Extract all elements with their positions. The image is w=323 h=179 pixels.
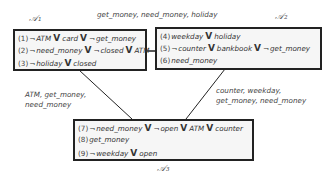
literal-atom: holiday (36, 59, 62, 68)
literal-atom: open (139, 149, 157, 158)
clause-row: (3)¬holidayVclosed (18, 57, 143, 69)
clause-number: (8) (78, 135, 88, 144)
negation-symbol: ¬ (171, 44, 177, 53)
literal-atom: closed (73, 59, 96, 68)
partition-box-a2: (4)weekdayVholiday(5)¬counterVbankbookV¬… (155, 27, 322, 70)
or-operator: V (180, 123, 187, 133)
partition-box-a1: (1)¬ATMVcardV¬get_money(2)¬need_moneyV¬c… (13, 29, 147, 71)
literal-atom: need_money (36, 46, 82, 55)
edge-a1-a3 (79, 70, 132, 119)
negation-symbol: ¬ (29, 59, 35, 68)
literal-atom: counter (178, 44, 206, 53)
negation-symbol: ¬ (89, 34, 95, 43)
literal-atom: ATM (36, 34, 51, 43)
literal-atom: get_money (89, 135, 129, 144)
partition-box-a3: (7)¬need_moneyV¬openVATMVcounter(8)get_m… (73, 119, 254, 161)
clause-row: (5)¬counterVbankbookV¬get_money (160, 42, 318, 54)
literal-atom: need_money (96, 124, 142, 133)
clause-row: (9)¬weekdayVopen (78, 147, 250, 159)
literal-atom: card (62, 34, 78, 43)
or-operator: V (84, 45, 91, 55)
or-operator: V (80, 33, 87, 43)
clause-number: (7) (78, 124, 88, 133)
clause-row: (8)get_money (78, 134, 250, 146)
literal-atom: closed (100, 46, 123, 55)
or-operator: V (64, 58, 71, 68)
literal-atom: ATM (134, 46, 149, 55)
clause-row: (4)weekdayVholiday (160, 30, 318, 42)
clause-number: (5) (160, 44, 170, 53)
negation-symbol: ¬ (89, 124, 95, 133)
partition-name-a3: 𝒜₃ (157, 163, 170, 174)
edge-label-line: get_money, need_money (216, 96, 306, 106)
or-operator: V (130, 148, 137, 158)
or-operator: V (206, 123, 213, 133)
negation-symbol: ¬ (263, 44, 269, 53)
clause-row: (2)¬need_moneyV¬closedVATM (18, 44, 143, 56)
edge-label-line: ATM, get_money, (25, 90, 86, 100)
negation-symbol: ¬ (89, 149, 95, 158)
or-operator: V (144, 123, 151, 133)
negation-symbol: ¬ (29, 46, 35, 55)
clause-number: (6) (160, 56, 170, 65)
clause-number: (2) (18, 46, 28, 55)
or-operator: V (53, 33, 60, 43)
literal-atom: bankbook (217, 44, 252, 53)
clause-row: (7)¬need_moneyV¬openVATMVcounter (78, 122, 250, 134)
literal-atom: get_money (270, 44, 310, 53)
or-operator: V (125, 45, 132, 55)
literal-atom: ATM (189, 124, 204, 133)
edge-label-a1-a2: get_money, need_money, holiday (97, 10, 217, 20)
clause-number: (4) (160, 32, 170, 41)
clause-number: (9) (78, 149, 88, 158)
or-operator: V (254, 43, 261, 53)
edge-label-line: counter, weekday, (216, 86, 306, 96)
negation-symbol: ¬ (29, 34, 35, 43)
literal-atom: weekday (171, 32, 203, 41)
clause-number: (1) (18, 34, 28, 43)
partition-name-a1: 𝒜₁ (29, 13, 42, 24)
clause-number: (3) (18, 59, 28, 68)
literal-atom: holiday (214, 32, 240, 41)
literal-atom: open (160, 124, 178, 133)
partition-name-a2: 𝒜₂ (275, 11, 288, 22)
literal-atom: get_money (96, 34, 136, 43)
edge-label-a2-a3: counter, weekday, get_money, need_money (216, 86, 306, 106)
edge-label-a1-a3: ATM, get_money, need_money (25, 90, 86, 110)
clause-row: (1)¬ATMVcardV¬get_money (18, 32, 143, 44)
negation-symbol: ¬ (93, 46, 99, 55)
negation-symbol: ¬ (153, 124, 159, 133)
edge-label-line: need_money (25, 100, 86, 110)
literal-atom: weekday (96, 149, 128, 158)
literal-atom: counter (215, 124, 243, 133)
or-operator: V (205, 31, 212, 41)
literal-atom: need_money (171, 56, 217, 65)
or-operator: V (208, 43, 215, 53)
clause-row: (6)need_money (160, 55, 318, 67)
